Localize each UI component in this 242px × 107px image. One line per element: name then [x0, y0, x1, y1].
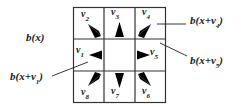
- wedge-v8-icon: [88, 72, 101, 86]
- wedge-v5-icon: [137, 51, 150, 60]
- direction-wedges: [88, 22, 151, 88]
- callout-b-x: b(x): [26, 31, 44, 44]
- wedge-v3-icon: [115, 22, 124, 37]
- callout-b-x-v1: b(x+v1): [10, 70, 43, 86]
- label-v2: v2: [81, 8, 89, 23]
- callout-b-x-v4: b(x+v4): [190, 14, 223, 30]
- label-v8: v8: [81, 86, 89, 101]
- label-v5: v5: [150, 46, 158, 61]
- label-v3: v3: [111, 6, 119, 21]
- neighborhood-diagram: v2 v3 v4 v1 v5 v8 v7 v6 b(x) b(x+v1) b(x…: [0, 0, 242, 107]
- label-v4: v4: [142, 6, 150, 21]
- label-v1: v1: [76, 44, 84, 59]
- label-v6: v6: [142, 85, 150, 100]
- wedge-v2-icon: [88, 24, 101, 38]
- callout-b-x-v5: b(x+v5): [190, 54, 223, 70]
- wedge-v1-icon: [89, 51, 102, 60]
- vector-labels: v2 v3 v4 v1 v5 v8 v7 v6: [76, 6, 158, 101]
- wedge-v7-icon: [115, 73, 124, 88]
- label-v7: v7: [111, 85, 119, 100]
